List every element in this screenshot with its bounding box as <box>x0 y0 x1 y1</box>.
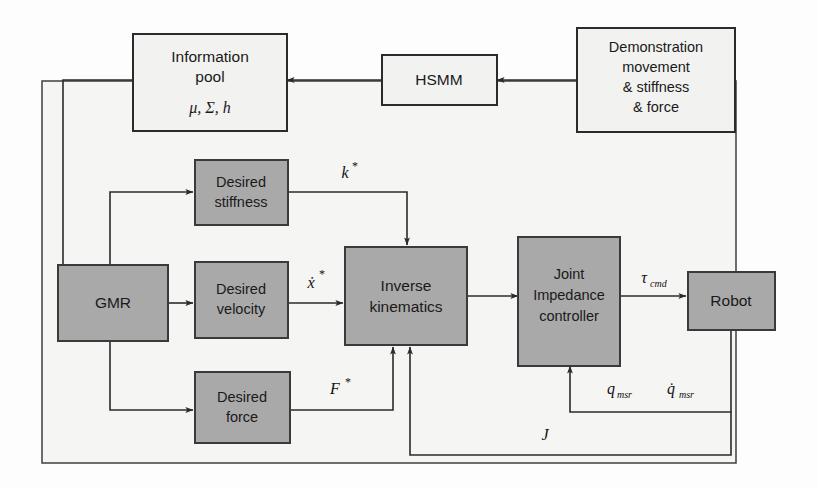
signal-jacobian: J <box>541 426 549 443</box>
hsmm-label: HSMM <box>415 71 462 88</box>
gmr-label: GMR <box>95 294 131 311</box>
desired-velocity-line1: Desired <box>216 281 266 297</box>
stiffness-cmd-star: * <box>352 159 358 173</box>
torque-cmd-sub: cmd <box>650 278 668 289</box>
information-pool-line1: Information <box>171 48 249 65</box>
block-robot[interactable]: Robot <box>688 272 775 330</box>
information-pool-line2: pool <box>195 68 224 85</box>
velocity-cmd-star: * <box>319 267 325 281</box>
block-hsmm[interactable]: HSMM <box>382 55 497 105</box>
block-diagram: Information pool μ, Σ, h HSMM Demonstrat… <box>0 0 818 489</box>
desired-stiffness-line1: Desired <box>216 174 266 190</box>
block-inverse-kinematics[interactable]: Inverse kinematics <box>345 247 467 345</box>
block-information-pool[interactable]: Information pool μ, Σ, h <box>133 34 287 131</box>
inverse-kinematics-line2: kinematics <box>369 298 442 315</box>
joint-impedance-controller-line1: Joint <box>554 266 585 282</box>
demonstration-line1: Demonstration <box>609 39 703 55</box>
block-joint-impedance-controller[interactable]: Joint Impedance controller <box>518 237 620 366</box>
block-desired-velocity[interactable]: Desired velocity <box>195 262 288 338</box>
joint-velocity-base: q̇ <box>667 380 675 398</box>
block-gmr[interactable]: GMR <box>58 265 168 341</box>
demonstration-line3: & stiffness <box>623 79 690 95</box>
desired-force-line2: force <box>226 409 258 425</box>
figure-canvas: Information pool μ, Σ, h HSMM Demonstrat… <box>0 0 818 489</box>
joint-impedance-controller-line2: Impedance <box>533 287 605 303</box>
desired-stiffness-line2: stiffness <box>215 194 268 210</box>
force-cmd-star: * <box>345 375 351 389</box>
block-demonstration[interactable]: Demonstration movement & stiffness & for… <box>577 28 735 132</box>
joint-velocity-sub: msr <box>679 389 694 400</box>
joint-impedance-controller-line3: controller <box>539 308 599 324</box>
joint-position-sub: msr <box>617 389 632 400</box>
force-cmd-base: F <box>329 380 340 397</box>
robot-label: Robot <box>710 292 752 309</box>
block-desired-force[interactable]: Desired force <box>195 372 290 443</box>
stiffness-cmd-base: k <box>341 164 349 181</box>
desired-force-line1: Desired <box>217 389 267 405</box>
joint-position-base: q <box>607 380 615 398</box>
velocity-cmd-base: ẋ <box>306 274 315 291</box>
desired-velocity-line2: velocity <box>217 301 266 317</box>
block-desired-stiffness[interactable]: Desired stiffness <box>195 160 288 225</box>
information-pool-symbols: μ, Σ, h <box>188 99 231 117</box>
demonstration-line2: movement <box>622 59 690 75</box>
demonstration-line4: & force <box>633 99 679 115</box>
inverse-kinematics-line1: Inverse <box>381 277 432 294</box>
